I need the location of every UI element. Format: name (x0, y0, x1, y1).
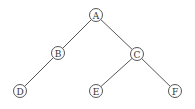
node-f: F (169, 85, 182, 98)
tree-diagram: ABCDEF (0, 0, 195, 109)
edge-c-e (101, 58, 132, 86)
node-label: A (92, 11, 100, 21)
node-d: D (14, 85, 27, 98)
node-label: B (55, 49, 62, 59)
node-label: D (16, 87, 23, 97)
edge-c-f (142, 59, 171, 87)
tree-nodes: ABCDEF (14, 9, 182, 98)
node-label: C (134, 50, 141, 60)
node-a: A (90, 9, 103, 22)
node-c: C (131, 48, 144, 61)
edge-a-c (101, 19, 133, 49)
node-label: E (93, 87, 100, 97)
tree-edges (25, 19, 171, 86)
node-label: F (172, 87, 178, 97)
node-e: E (90, 85, 103, 98)
node-b: B (52, 47, 65, 60)
edge-a-b (63, 20, 92, 49)
edge-b-d (25, 58, 54, 87)
